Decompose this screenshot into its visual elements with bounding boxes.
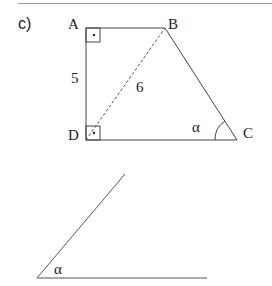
vertex-label-A: A bbox=[68, 17, 79, 32]
geometry-figure bbox=[0, 0, 272, 286]
diagonal-length-BD: 6 bbox=[136, 80, 144, 95]
angle-ray bbox=[37, 174, 125, 278]
angle-arc-C bbox=[215, 121, 225, 140]
vertex-label-C: C bbox=[243, 126, 253, 141]
trapezoid-ABCD bbox=[86, 28, 237, 140]
vertex-label-B: B bbox=[168, 17, 178, 32]
vertex-label-D: D bbox=[68, 128, 79, 143]
side-length-AD: 5 bbox=[71, 71, 79, 86]
diagonal-BD bbox=[86, 28, 165, 140]
angle-label-alpha: α bbox=[192, 120, 200, 135]
angle-figure-label-alpha: α bbox=[54, 262, 62, 277]
part-label: c) bbox=[18, 16, 31, 32]
